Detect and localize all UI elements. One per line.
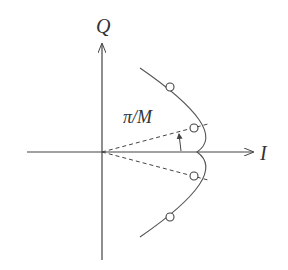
i-axis-label: I bbox=[259, 142, 268, 164]
angle-arrow bbox=[179, 134, 181, 151]
q-axis-label: Q bbox=[96, 15, 111, 37]
constellation-point bbox=[166, 83, 174, 91]
angle-label: π/M bbox=[123, 107, 153, 127]
constellation-point bbox=[166, 213, 174, 221]
constellation-point bbox=[190, 124, 198, 132]
constellation-point bbox=[190, 172, 198, 180]
iq-constellation-diagram: Q I π/M bbox=[0, 0, 288, 270]
